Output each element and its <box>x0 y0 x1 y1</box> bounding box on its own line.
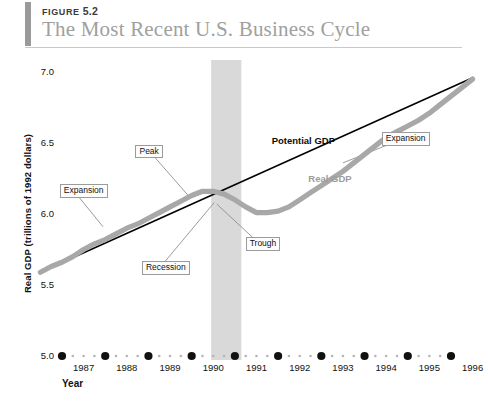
axis-dot-minor <box>255 355 258 358</box>
x-tick-label: 1992 <box>283 362 317 373</box>
axis-dot-minor <box>331 355 334 358</box>
annotation-expansion-left: Expansion <box>60 184 108 198</box>
axis-dot-minor <box>72 355 75 358</box>
axis-tick-dots <box>58 352 455 360</box>
axis-dot-major <box>188 352 196 360</box>
annotation-peak: Peak <box>135 145 162 159</box>
axis-dot-minor <box>169 355 172 358</box>
axis-dot-minor <box>428 355 431 358</box>
y-tick-label: 6.5 <box>28 137 54 148</box>
annotation-expansion-right: Expansion <box>382 132 430 146</box>
axis-dot-minor <box>309 355 312 358</box>
axis-dot-minor <box>288 355 291 358</box>
axis-dot-minor <box>352 355 355 358</box>
axis-dot-minor <box>82 355 85 358</box>
axis-dot-major <box>101 352 109 360</box>
axis-dot-major <box>274 352 282 360</box>
x-tick-label: 1987 <box>67 362 101 373</box>
axis-dot-minor <box>417 355 420 358</box>
axis-dot-minor <box>298 355 301 358</box>
axis-dot-minor <box>244 355 247 358</box>
axis-dot-minor <box>223 355 226 358</box>
x-tick-label: 1994 <box>369 362 403 373</box>
axis-dot-major <box>58 352 66 360</box>
leader-line-peak <box>151 154 188 196</box>
axis-dot-minor <box>180 355 183 358</box>
y-tick-label: 5.0 <box>28 350 54 361</box>
axis-dot-major <box>404 352 412 360</box>
recession-band-rect <box>211 60 241 360</box>
x-tick-label: 1996 <box>456 362 488 373</box>
y-tick-label: 5.5 <box>28 279 54 290</box>
leader-line-expansion-left <box>76 193 103 227</box>
axis-dot-minor <box>385 355 388 358</box>
y-tick-label: 6.0 <box>28 208 54 219</box>
axis-dot-minor <box>126 355 129 358</box>
leader-line-recession <box>158 203 214 270</box>
x-tick-label: 1989 <box>153 362 187 373</box>
axis-dot-minor <box>115 355 118 358</box>
x-tick-label: 1988 <box>110 362 144 373</box>
x-tick-label: 1991 <box>240 362 274 373</box>
x-tick-label: 1993 <box>326 362 360 373</box>
annotation-trough: Trough <box>246 237 281 251</box>
axis-dot-minor <box>212 355 215 358</box>
axis-dot-minor <box>342 355 345 358</box>
axis-dot-minor <box>201 355 204 358</box>
axis-dot-minor <box>93 355 96 358</box>
axis-dot-major <box>317 352 325 360</box>
axis-dot-minor <box>136 355 139 358</box>
axis-dot-minor <box>266 355 269 358</box>
axis-dot-minor <box>396 355 399 358</box>
axis-dot-minor <box>439 355 442 358</box>
annotation-potential-gdp: Potential GDP <box>272 135 335 146</box>
axis-dot-major <box>231 352 239 360</box>
y-tick-label: 7.0 <box>28 66 54 77</box>
x-tick-label: 1990 <box>196 362 230 373</box>
axis-dot-major <box>144 352 152 360</box>
axis-dot-minor <box>374 355 377 358</box>
annotation-real-gdp: Real GDP <box>308 173 351 184</box>
annotation-recession: Recession <box>142 261 190 275</box>
recession-shaded-band <box>211 60 241 360</box>
axis-dot-major <box>360 352 368 360</box>
axis-dot-major <box>447 352 455 360</box>
x-tick-label: 1995 <box>412 362 446 373</box>
axis-dot-minor <box>158 355 161 358</box>
